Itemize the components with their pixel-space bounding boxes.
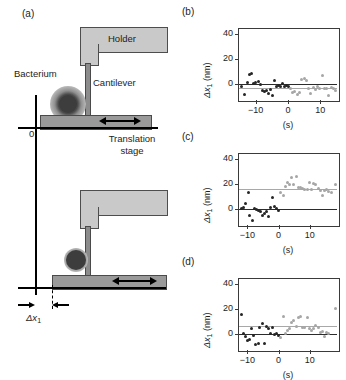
panel-c-chart: (c)02040−10010Δx1 (nm)(s) <box>180 125 346 250</box>
data-point-d-0-13 <box>267 327 270 330</box>
panel-a-schematic: (a) Holder Cantilever Bacterium 0 Transl… <box>0 0 180 379</box>
ytick-d-1 <box>235 309 239 310</box>
displacement-symbol: Δx <box>26 312 37 323</box>
y-axis-label-unit-b: (nm) <box>202 63 212 84</box>
data-point-b-0-14 <box>271 94 274 97</box>
ytick-label-c-2: 40 <box>210 153 233 163</box>
data-point-b-0-13 <box>269 88 272 91</box>
data-point-d-0-4 <box>248 338 251 341</box>
data-point-d-1-7 <box>295 325 298 328</box>
panel-d-chart: (d)02040−10010Δx1 (nm)(s) <box>180 250 346 375</box>
data-point-c-1-14 <box>310 188 313 191</box>
xtick-c-1 <box>279 225 280 229</box>
data-point-c-1-12 <box>306 188 309 191</box>
data-point-b-1-0 <box>289 87 292 90</box>
ytick-label-d-2: 40 <box>210 278 233 288</box>
data-point-c-0-13 <box>267 215 270 218</box>
xtick-c-0 <box>247 225 248 229</box>
y-axis-label-symbol-d: Δx <box>202 337 212 348</box>
origin-label: 0 <box>29 128 34 139</box>
data-point-c-0-1 <box>242 206 245 209</box>
data-point-b-0-1 <box>243 93 246 96</box>
cantilever-top-label: Cantilever <box>93 77 136 88</box>
y-axis-label-d: Δx1 (nm) <box>202 313 213 348</box>
y-axis-label-subscript-c: 1 <box>206 209 213 213</box>
data-point-d-0-6 <box>252 334 255 337</box>
data-point-c-1-7 <box>295 175 298 178</box>
xtick-b-0 <box>256 100 257 104</box>
horizontal-reference-line-top <box>18 127 158 129</box>
data-point-c-0-15 <box>271 196 274 199</box>
data-point-d-1-9 <box>299 315 302 318</box>
xtick-label-c-2: 10 <box>295 230 325 240</box>
data-point-c-1-18 <box>319 189 322 192</box>
translation-stage-label-line1: Translation <box>96 133 168 144</box>
xtick-label-b-1: 0 <box>273 105 303 115</box>
xtick-label-d-1: 0 <box>264 355 294 365</box>
data-point-c-1-23 <box>330 191 333 194</box>
data-point-d-1-4 <box>288 327 291 330</box>
data-point-d-0-0 <box>240 313 243 316</box>
bacterium-label: Bacterium <box>14 68 57 79</box>
ytick-label-b-2: 40 <box>210 28 233 38</box>
ytick-label-d-1: 20 <box>210 303 233 313</box>
bacterium-bottom-core <box>66 250 86 270</box>
y-axis-label-subscript-d: 1 <box>206 334 213 338</box>
data-point-c-1-1 <box>282 194 285 197</box>
displacement-label: Δx1 <box>26 312 41 324</box>
data-point-b-1-20 <box>334 89 337 92</box>
panel-c-label: (c) <box>182 131 194 142</box>
data-point-b-0-2 <box>246 81 249 84</box>
bacterium-top-core <box>59 95 77 113</box>
holder-top-label: Holder <box>108 33 136 44</box>
data-point-d-1-19 <box>321 330 324 333</box>
xtick-c-2 <box>310 225 311 229</box>
y-axis-label-symbol-b: Δx <box>202 87 212 98</box>
ytick-label-b-1: 20 <box>210 53 233 63</box>
panel-d-label: (d) <box>182 256 194 267</box>
xtick-label-d-0: −10 <box>232 355 262 365</box>
y-axis-label-subscript-b: 1 <box>206 84 213 88</box>
xtick-label-b-2: 10 <box>305 105 335 115</box>
data-point-c-1-2 <box>284 185 287 188</box>
data-point-d-0-11 <box>263 342 266 345</box>
data-point-d-1-17 <box>317 326 320 329</box>
ytick-b-2 <box>235 34 239 35</box>
data-point-d-1-20 <box>323 335 326 338</box>
xtick-d-1 <box>279 350 280 354</box>
data-point-d-0-2 <box>244 335 247 338</box>
data-point-c-1-19 <box>321 194 324 197</box>
translation-stage-label-line2: stage <box>96 145 168 156</box>
displacement-subscript: 1 <box>37 317 41 324</box>
data-point-c-1-16 <box>314 183 317 186</box>
y-axis-label-b: Δx1 (nm) <box>202 63 213 98</box>
data-point-c-0-3 <box>247 191 250 194</box>
data-point-b-1-11 <box>314 88 317 91</box>
y-axis-label-unit-c: (nm) <box>202 188 212 209</box>
y-axis-label-symbol-c: Δx <box>202 212 212 223</box>
xtick-label-c-1: 0 <box>264 230 294 240</box>
ytick-d-2 <box>235 284 239 285</box>
data-point-b-0-18 <box>279 85 282 88</box>
xtick-label-d-2: 10 <box>295 355 325 365</box>
xtick-b-2 <box>320 100 321 104</box>
plot-area-b <box>238 28 340 102</box>
y-axis-label-c: Δx1 (nm) <box>202 188 213 223</box>
data-point-d-1-1 <box>282 315 285 318</box>
vertical-reference-axis <box>35 95 37 295</box>
ytick-label-d-0: 0 <box>210 328 233 338</box>
horizontal-reference-line-bottom <box>18 287 166 289</box>
ytick-c-1 <box>235 184 239 185</box>
data-point-b-0-8 <box>259 83 262 86</box>
ytick-label-c-1: 20 <box>210 178 233 188</box>
plot-area-d <box>238 278 340 352</box>
data-point-c-0-9 <box>259 210 262 213</box>
x-axis-label-d: (s) <box>238 370 338 380</box>
data-point-d-1-15 <box>312 327 315 330</box>
data-point-d-1-12 <box>306 316 309 319</box>
ytick-b-1 <box>235 59 239 60</box>
xtick-label-c-0: −10 <box>232 230 262 240</box>
panel-b-label: (b) <box>182 6 194 17</box>
data-point-d-0-8 <box>257 342 260 345</box>
xtick-label-b-0: −10 <box>241 105 271 115</box>
